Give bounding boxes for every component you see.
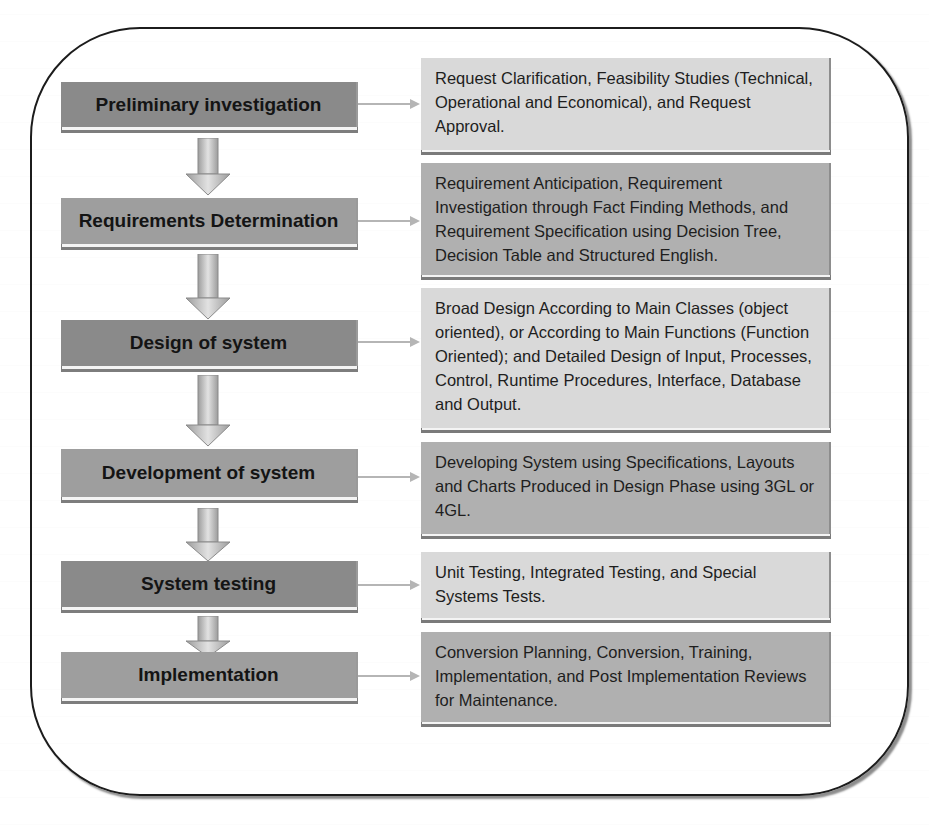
arrow-down-icon	[185, 138, 231, 196]
arrow-right-icon	[356, 215, 421, 227]
phase-label: Requirements Determination	[79, 210, 339, 232]
phase-implementation: Implementation	[61, 652, 358, 698]
phase-design-of-system: Design of system	[61, 320, 358, 366]
phase-description-system-testing: Unit Testing, Integrated Testing, and Sp…	[421, 552, 831, 618]
phase-label: System testing	[141, 573, 276, 595]
phase-description-development-of-system: Developing System using Specifications, …	[421, 442, 831, 534]
arrow-right-icon	[356, 579, 421, 591]
phase-label: Implementation	[138, 664, 278, 686]
phase-development-of-system: Development of system	[61, 449, 358, 497]
phase-description-implementation: Conversion Planning, Conversion, Trainin…	[421, 632, 831, 722]
description-text: Broad Design According to Main Classes (…	[435, 299, 812, 413]
arrow-right-icon	[356, 471, 421, 483]
phase-requirements-determination: Requirements Determination	[61, 198, 358, 244]
arrow-right-icon	[356, 98, 421, 110]
description-text: Requirement Anticipation, Requirement In…	[435, 174, 788, 264]
phase-system-testing: System testing	[61, 561, 358, 607]
arrow-right-icon	[356, 336, 421, 348]
phase-description-requirements-determination: Requirement Anticipation, Requirement In…	[421, 163, 831, 275]
phase-label: Development of system	[102, 462, 315, 484]
phase-label: Design of system	[130, 332, 287, 354]
arrow-down-icon	[185, 375, 231, 447]
description-text: Developing System using Specifications, …	[435, 453, 814, 519]
phase-label: Preliminary investigation	[96, 94, 322, 116]
phase-description-preliminary-investigation: Request Clarification, Feasibility Studi…	[421, 58, 831, 150]
arrow-down-icon	[185, 508, 231, 562]
arrow-down-icon	[185, 254, 231, 320]
phase-preliminary-investigation: Preliminary investigation	[61, 82, 358, 127]
description-text: Conversion Planning, Conversion, Trainin…	[435, 643, 806, 709]
description-text: Request Clarification, Feasibility Studi…	[435, 69, 813, 135]
description-text: Unit Testing, Integrated Testing, and Sp…	[435, 563, 756, 605]
phase-description-design-of-system: Broad Design According to Main Classes (…	[421, 288, 831, 428]
arrow-right-icon	[356, 670, 421, 682]
